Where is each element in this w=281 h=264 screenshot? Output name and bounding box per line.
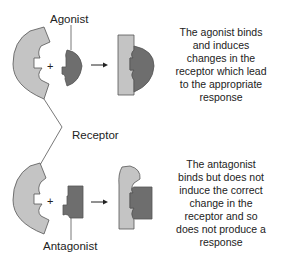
antagonist-shape	[63, 186, 83, 218]
bound-agonist-top	[130, 46, 154, 92]
agonist-description: The agonist binds and induces changes in…	[163, 26, 279, 104]
receptor-label: Receptor	[72, 129, 119, 142]
antagonist-description: The antagonist binds but does not induce…	[163, 158, 279, 249]
plus-sign-bottom: +	[47, 195, 53, 207]
plus-sign-top: +	[47, 60, 53, 72]
agonist-label: Agonist	[50, 13, 88, 26]
bound-antagonist-bottom	[130, 187, 152, 219]
receptor-pointer-line	[40, 99, 62, 165]
receptor-bottom	[13, 163, 49, 234]
antagonist-label: Antagonist	[43, 240, 97, 253]
receptor-top	[13, 27, 50, 99]
agonist-shape	[62, 50, 82, 86]
